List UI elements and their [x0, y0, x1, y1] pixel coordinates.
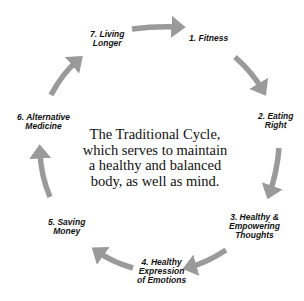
- step-2-eating-right: 2. Eating Right: [258, 112, 293, 130]
- step-7-living-longer: 7. Living Longer: [90, 30, 124, 48]
- step-3-healthy-empowering-thoughts: 3. Healthy & Empowering Thoughts: [229, 213, 280, 240]
- cycle-diagram: 1. Fitness 2. Eating Right 3. Healthy & …: [0, 0, 304, 301]
- center-description: The Traditional Cycle, which serves to m…: [70, 127, 240, 189]
- step-6-alternative-medicine: 6. Alternative Medicine: [17, 113, 70, 131]
- step-5-saving-money: 5. Saving Money: [48, 218, 85, 236]
- step-4-healthy-expression-of-emotions: 4. Healthy Expression of Emotions: [137, 258, 186, 285]
- arrow-5-to-6-icon: [40, 152, 50, 197]
- arrow-6-to-7-icon: [51, 61, 77, 95]
- arrow-4-to-5-icon: [98, 252, 133, 268]
- step-1-fitness: 1. Fitness: [189, 34, 228, 43]
- arrow-2-to-3-icon: [270, 148, 279, 192]
- arrow-7-to-1-icon: [132, 27, 178, 29]
- arrow-3-to-4-icon: [190, 250, 226, 267]
- arrow-1-to-2-icon: [235, 57, 262, 89]
